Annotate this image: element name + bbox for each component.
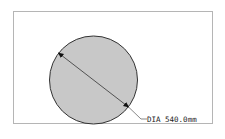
dimension-label: DIA 540.0mm	[147, 115, 197, 124]
leader-line	[129, 107, 148, 119]
diameter-diagram: DIA 540.0mm	[0, 0, 225, 139]
